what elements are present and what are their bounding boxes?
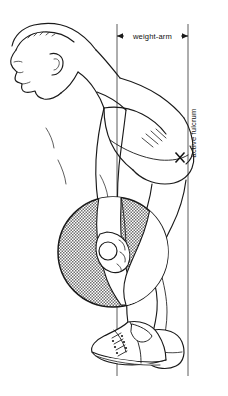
- weight-arm-label: weight-arm: [132, 32, 172, 41]
- barbell-bar-cross-section: [99, 242, 117, 260]
- biomechanics-illustration: weight-arm active fulcrum: [0, 0, 228, 396]
- figure-canvas: weight-arm active fulcrum: [0, 0, 228, 396]
